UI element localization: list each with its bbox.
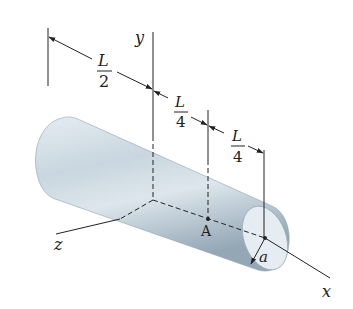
dimension-arrow-q1-right (191, 117, 207, 125)
radius-label: a (259, 248, 268, 266)
dim-half-denominator: 2 (99, 72, 109, 91)
dimension-arrow-q2-right (248, 146, 263, 153)
x-axis-label: x (322, 282, 331, 301)
z-axis (56, 219, 120, 234)
dimension-arrow-q2-left (209, 126, 224, 133)
dim-q1-denominator: 4 (176, 113, 186, 131)
point-A-label: A (200, 223, 212, 239)
y-axis-label: y (134, 28, 145, 47)
point-A-marker (206, 217, 210, 221)
end-center-marker (263, 236, 267, 240)
z-axis-label: z (53, 235, 63, 254)
dim-q1-numerator: L (174, 93, 185, 111)
cylinder-diagram: L 2 L 4 L 4 y z x A a (0, 0, 353, 309)
dimension-arrow-q1-left (154, 91, 168, 98)
dimension-arrow-half-left (49, 37, 92, 59)
dim-q2-denominator: 4 (233, 148, 243, 166)
dim-q2-numerator: L (231, 127, 242, 145)
dimension-arrow-half-right (117, 72, 152, 89)
dim-half-numerator: L (97, 51, 109, 70)
